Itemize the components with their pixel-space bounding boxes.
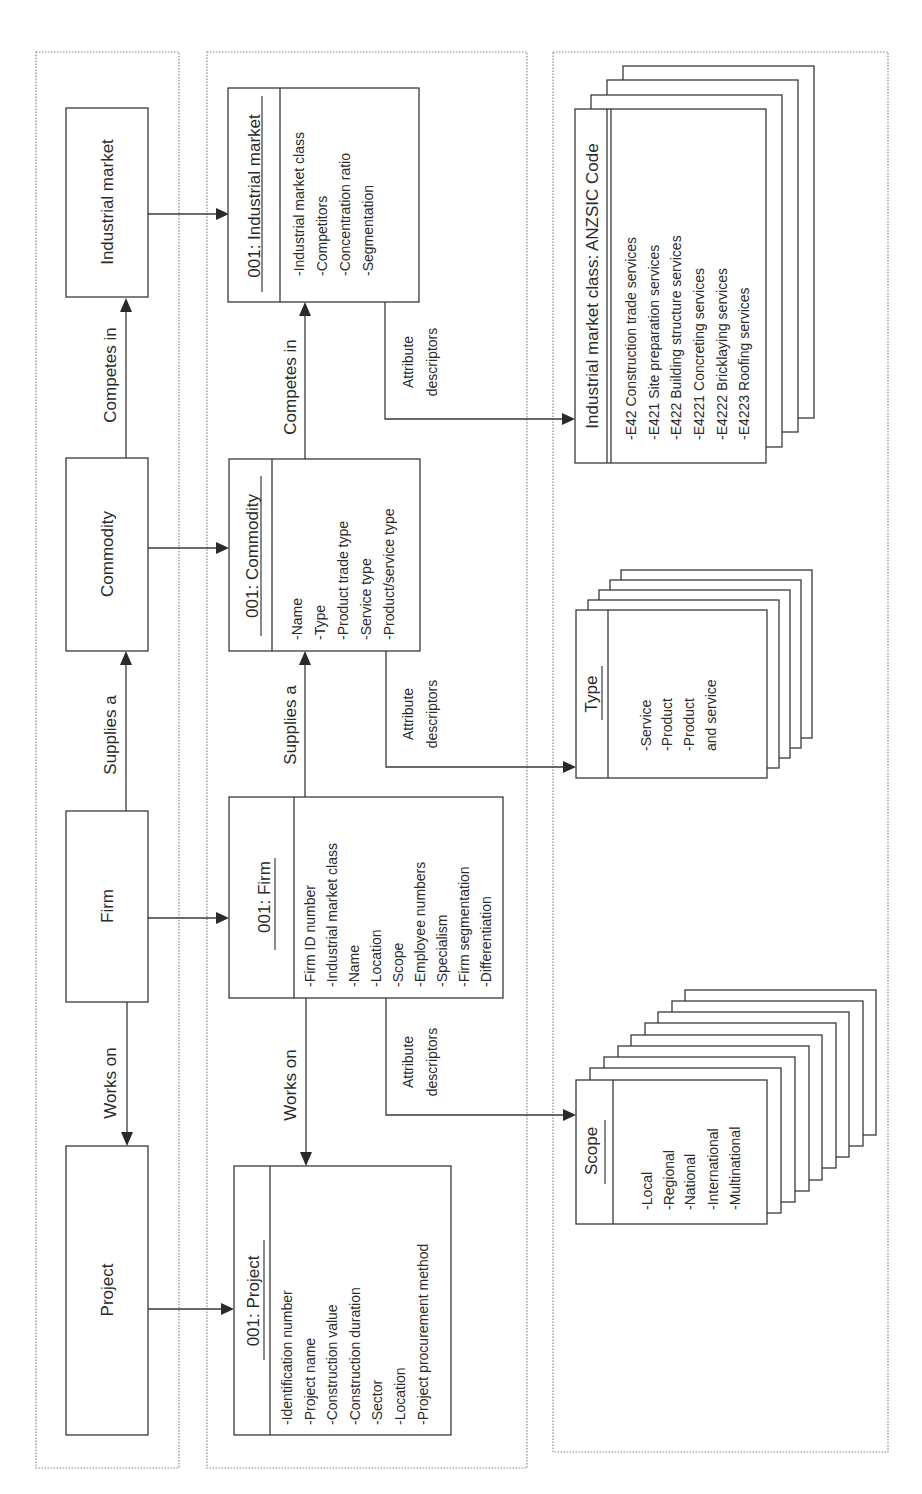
- attribute-item: -Project procurement method: [415, 1244, 431, 1425]
- attribute-item: -Identification number: [279, 1290, 295, 1425]
- relation-label: descriptors: [424, 328, 440, 396]
- attribute-item: -Competitors: [314, 196, 330, 276]
- connector-anzsic: Attribute descriptors: [385, 302, 575, 425]
- entity-relationship-diagram: Industrial market Commodity Firm Project…: [0, 0, 922, 1494]
- attribute-item: -Scope: [390, 942, 406, 987]
- entity-label: Industrial market: [98, 139, 117, 265]
- entity-label: Project: [98, 1263, 117, 1316]
- descriptor-item: -Regional: [661, 1150, 677, 1210]
- relation-label: Works on: [101, 1047, 120, 1119]
- descriptor-item: -E422 Building structure services: [668, 235, 684, 440]
- attribute-item: -Type: [312, 605, 328, 640]
- attribute-item: -Firm segmentation: [456, 866, 472, 987]
- relation-label: descriptors: [424, 1028, 440, 1096]
- relation-label: Competes in: [281, 339, 300, 434]
- entity-label: Firm: [98, 889, 117, 923]
- arrowhead-icon: [121, 1132, 133, 1146]
- descriptor-type-stack: Type -Service -Product -Product and serv…: [576, 570, 812, 778]
- arrowhead-icon: [563, 1109, 576, 1121]
- descriptor-item: -Product: [659, 698, 675, 751]
- relation-supplies-a-middle: Supplies a: [281, 651, 311, 797]
- descriptor-title: Industrial market class: ANZSIC Code: [583, 143, 602, 428]
- instance-firm: 001: Firm -Firm ID number -Industrial ma…: [229, 797, 503, 998]
- entity-project: Project: [66, 1146, 148, 1435]
- instance-title: 001: Industrial market: [245, 114, 264, 278]
- instance-commodity: 001: Commodity -Name -Type -Product trad…: [229, 459, 420, 651]
- attribute-item: -Project name: [302, 1338, 318, 1425]
- instance-title: 001: Commodity: [243, 494, 262, 618]
- descriptor-scope-stack: Scope -Local -Regional -National -Intern…: [576, 990, 876, 1224]
- attribute-item: -Employee numbers: [412, 862, 428, 987]
- arrowhead-icon: [563, 761, 576, 773]
- descriptor-item: -Product: [681, 698, 697, 751]
- attribute-item: -Sector: [369, 1380, 385, 1425]
- attribute-item: -Location: [368, 929, 384, 987]
- attribute-item: -Name: [289, 598, 305, 640]
- relation-label: Supplies a: [101, 695, 120, 775]
- relation-works-on-left: Works on: [101, 1002, 133, 1146]
- entity-label: Commodity: [98, 511, 117, 597]
- connector-scope: Attribute descriptors: [386, 998, 576, 1121]
- attribute-item: -Specialism: [434, 915, 450, 987]
- descriptor-item: -E4222 Bricklaying services: [714, 268, 730, 440]
- arrowhead-icon: [562, 413, 575, 425]
- attribute-item: -Concentration ratio: [337, 153, 353, 276]
- attribute-item: -Service type: [358, 558, 374, 640]
- arrowhead-icon: [221, 1303, 234, 1315]
- descriptor-title: Type: [582, 676, 601, 713]
- relation-competes-in-left: Competes in: [101, 298, 132, 458]
- arrowhead-icon: [120, 298, 132, 312]
- descriptor-item: and service: [703, 679, 719, 751]
- descriptor-item: -E4221 Concreting services: [691, 268, 707, 440]
- relation-label: Attribute: [400, 336, 416, 388]
- attribute-item: -Segmentation: [360, 185, 376, 276]
- arrowhead-icon: [300, 1152, 312, 1166]
- attribute-item: -Name: [346, 945, 362, 987]
- relation-competes-in-middle: Competes in: [281, 302, 311, 459]
- link-project: [148, 1303, 234, 1315]
- descriptor-title: Scope: [582, 1127, 601, 1175]
- instance-title: 001: Project: [244, 1255, 263, 1346]
- entity-industrial-market: Industrial market: [66, 108, 148, 297]
- attribute-item: -Industrial market class: [291, 132, 307, 276]
- attribute-item: -Industrial market class: [324, 843, 340, 987]
- attribute-item: -Product/service type: [381, 508, 397, 640]
- descriptor-item: -International: [705, 1128, 721, 1210]
- relation-label: Attribute: [400, 688, 416, 740]
- entity-commodity: Commodity: [66, 458, 148, 651]
- descriptor-card-front: [576, 610, 767, 778]
- instance-project: 001: Project -Identification number -Pro…: [234, 1166, 451, 1435]
- link-industrial-market: [148, 208, 229, 220]
- descriptor-item: -E42 Construction trade services: [623, 237, 639, 440]
- relation-label: Supplies a: [281, 685, 300, 765]
- instance-title: 001: Firm: [255, 861, 274, 933]
- descriptor-item: -E4223 Roofing services: [736, 287, 752, 440]
- relation-label: Works on: [281, 1049, 300, 1121]
- descriptor-item: -E421 Site preparation services: [646, 245, 662, 440]
- descriptor-item: -National: [682, 1154, 698, 1210]
- relation-supplies-a-left: Supplies a: [101, 651, 132, 811]
- link-commodity: [148, 542, 229, 554]
- descriptor-item: -Service: [638, 699, 654, 751]
- arrowhead-icon: [299, 651, 311, 665]
- attribute-item: -Product trade type: [335, 521, 351, 640]
- instance-industrial-market: 001: Industrial market -Industrial marke…: [228, 88, 419, 302]
- connector-type: Attribute descriptors: [386, 651, 576, 773]
- entity-firm: Firm: [66, 811, 148, 1002]
- arrowhead-icon: [120, 651, 132, 665]
- descriptor-item: -Local: [639, 1172, 655, 1210]
- attribute-item: -Firm ID number: [302, 885, 318, 987]
- descriptor-anzsic-stack: Industrial market class: ANZSIC Code -E4…: [575, 66, 814, 463]
- attribute-item: -Differentiation: [478, 896, 494, 987]
- arrowhead-icon: [216, 208, 229, 220]
- attribute-item: -Location: [392, 1367, 408, 1425]
- relation-label: descriptors: [424, 680, 440, 748]
- descriptor-item: -Multinational: [727, 1127, 743, 1210]
- link-firm: [148, 912, 229, 924]
- arrowhead-icon: [216, 542, 229, 554]
- relation-works-on-middle: Works on: [281, 998, 312, 1166]
- attribute-item: -Construction duration: [347, 1287, 363, 1425]
- relation-label: Competes in: [101, 327, 120, 422]
- arrowhead-icon: [216, 912, 229, 924]
- arrowhead-icon: [299, 302, 311, 316]
